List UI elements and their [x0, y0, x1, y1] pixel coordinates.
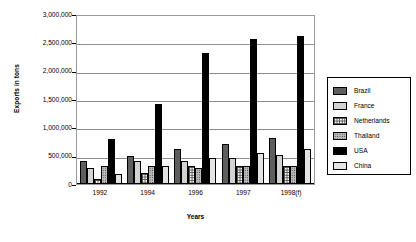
bar-usa-1996: [202, 53, 209, 184]
bar-china-1998f: [304, 149, 311, 184]
bar-thailand-1997: [243, 166, 250, 184]
legend-item-france: France: [333, 98, 410, 113]
plot-area: [76, 15, 315, 185]
bar-china-1997: [257, 153, 264, 184]
bar-brazil-1998f: [269, 138, 276, 184]
bar-usa-1994: [155, 104, 162, 184]
x-tick-label: 1992: [76, 188, 124, 200]
bar-thailand-1996: [195, 168, 202, 184]
bar-france-1996: [181, 161, 188, 184]
legend-item-usa: USA: [333, 143, 410, 158]
x-axis-tick-labels: 19921994199619971998(f): [76, 188, 315, 200]
legend-item-thailand: Thailand: [333, 128, 410, 143]
legend-label: USA: [354, 147, 368, 154]
legend-label: France: [354, 102, 375, 109]
legend-label: Brazil: [354, 87, 371, 94]
legend-swatch-thailand: [333, 132, 347, 140]
legend-swatch-brazil: [333, 87, 347, 95]
x-tick-label: 1997: [219, 188, 267, 200]
x-axis-title: Years: [76, 213, 315, 220]
bar-group-1997: [222, 16, 264, 184]
bar-group-1994: [127, 16, 169, 184]
y-tick-label: 1,500,000: [10, 97, 72, 104]
legend-label: China: [354, 162, 371, 169]
y-axis-title: Exports in tons: [13, 44, 20, 134]
x-tick-label: 1996: [172, 188, 220, 200]
bar-usa-1998f: [297, 36, 304, 184]
bar-china-1996: [209, 158, 216, 184]
bar-france-1997: [229, 158, 236, 184]
legend-swatch-france: [333, 102, 347, 110]
bar-group-1992: [80, 16, 122, 184]
bar-china-1994: [162, 166, 169, 184]
y-tick-label: 2,500,000: [10, 40, 72, 47]
bar-france-1994: [134, 161, 141, 184]
legend-swatch-netherlands: [333, 117, 347, 125]
bar-brazil-1992: [80, 161, 87, 184]
bar-netherlands-1998f: [283, 166, 290, 184]
bar-netherlands-1997: [236, 166, 243, 184]
bar-france-1992: [87, 168, 94, 184]
y-tick-mark: [72, 185, 76, 186]
legend: BrazilFranceNetherlandsThailandUSAChina: [327, 77, 411, 175]
y-tick-label: 3,000,000: [10, 12, 72, 19]
bar-thailand-1998f: [290, 166, 297, 184]
legend-swatch-usa: [333, 147, 347, 155]
bar-netherlands-1996: [188, 166, 195, 184]
bar-group-1996: [174, 16, 216, 184]
bar-usa-1992: [108, 139, 115, 184]
y-tick-label: 0: [10, 182, 72, 189]
bar-brazil-1994: [127, 156, 134, 184]
bar-usa-1997: [250, 39, 257, 184]
bar-groups: [77, 16, 314, 184]
bar-brazil-1996: [174, 149, 181, 184]
bar-france-1998f: [276, 155, 283, 184]
bar-thailand-1992: [101, 166, 108, 184]
bar-thailand-1994: [148, 166, 155, 184]
legend-item-china: China: [333, 158, 410, 173]
bar-group-1998f: [269, 16, 311, 184]
x-tick-label: 1994: [124, 188, 172, 200]
legend-item-netherlands: Netherlands: [333, 113, 410, 128]
legend-swatch-china: [333, 162, 347, 170]
bar-chart: Exports in tons 0500,0001,000,0001,500,0…: [0, 0, 416, 242]
x-axis-line: [77, 183, 314, 184]
bar-brazil-1997: [222, 144, 229, 184]
y-tick-label: 500,000: [10, 153, 72, 160]
y-tick-label: 2,000,000: [10, 68, 72, 75]
y-tick-label: 1,000,000: [10, 125, 72, 132]
legend-label: Thailand: [354, 132, 379, 139]
x-tick-label: 1998(f): [267, 188, 315, 200]
legend-item-brazil: Brazil: [333, 83, 410, 98]
legend-label: Netherlands: [354, 117, 390, 124]
